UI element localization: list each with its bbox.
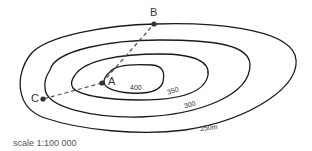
contour-300	[45, 40, 250, 117]
point-b-marker	[151, 21, 156, 26]
scale-label: scale 1:100 000	[13, 139, 77, 148]
point-c-marker	[40, 96, 45, 101]
point-c-label: C	[31, 93, 39, 104]
point-b-label: B	[150, 7, 157, 18]
contour-label-400: 400	[130, 84, 142, 91]
contour-lines	[0, 0, 312, 151]
contour-map: A B C 400 350 300 250m scale 1:100 000	[0, 0, 312, 151]
point-a-marker	[99, 80, 104, 85]
point-a-label: A	[108, 76, 115, 87]
